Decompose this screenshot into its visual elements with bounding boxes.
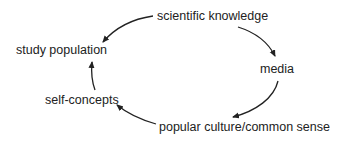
node-media: media	[260, 62, 294, 76]
node-study-population: study population	[16, 43, 107, 57]
arrow-scientific-to-media	[238, 27, 275, 56]
node-scientific-knowledge: scientific knowledge	[157, 9, 268, 23]
arrow-scientific-to-study	[103, 16, 153, 42]
arrow-media-to-popular-culture	[233, 81, 278, 117]
arrow-self-concepts-to-study	[92, 62, 95, 90]
cycle-diagram: scientific knowledge media popular cultu…	[0, 0, 339, 143]
node-popular-culture: popular culture/common sense	[159, 120, 330, 134]
arrow-popular-culture-to-self-concepts	[117, 105, 156, 124]
node-self-concepts: self-concepts	[45, 93, 119, 107]
